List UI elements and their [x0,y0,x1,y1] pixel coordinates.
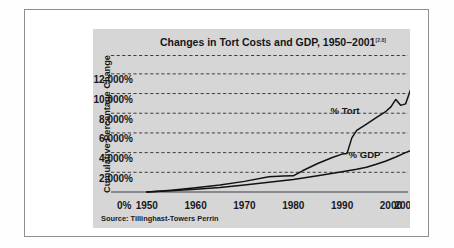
y-tick-label: 10,000% [94,94,134,105]
x-tick-label: 1960 [184,200,207,211]
series-label-tort: % Tort [330,105,360,116]
series-label-gdp: % GDP [349,149,382,160]
series-line-tort [147,75,410,192]
x-tick-label: 1990 [331,200,354,211]
x-tick-label: 1970 [233,200,256,211]
x-tick-label: 0% [117,200,132,211]
tort-gdp-line-chart: Changes in Tort Costs and GDP, 1950–2001… [93,29,410,228]
x-tick-label: 1980 [282,200,305,211]
x-tick-label: 2001 [394,200,410,211]
y-tick-label: 12,000% [94,74,134,85]
source-note: Source: Tillinghast-Towers Perrin [101,214,219,223]
chart-title: Changes in Tort Costs and GDP, 1950–2001… [160,36,386,48]
chart-panel: Changes in Tort Costs and GDP, 1950–2001… [93,29,410,228]
y-axis-title: Cumulative Percentage Change [102,55,112,193]
page-frame: Changes in Tort Costs and GDP, 1950–2001… [24,9,429,237]
x-tick-label: 1950 [136,200,159,211]
figure-root: Changes in Tort Costs and GDP, 1950–2001… [0,0,454,248]
